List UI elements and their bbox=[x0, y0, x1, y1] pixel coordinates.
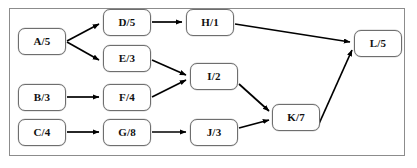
node-d[interactable]: D/5 bbox=[103, 9, 151, 36]
node-f[interactable]: F/4 bbox=[103, 84, 151, 111]
node-label: L/5 bbox=[370, 38, 387, 49]
node-label: E/3 bbox=[119, 53, 136, 64]
node-c[interactable]: C/4 bbox=[18, 119, 66, 146]
node-b[interactable]: B/3 bbox=[18, 84, 66, 111]
node-j[interactable]: J/3 bbox=[190, 119, 238, 146]
node-i[interactable]: I/2 bbox=[190, 63, 238, 90]
node-h[interactable]: H/1 bbox=[186, 9, 234, 36]
node-l[interactable]: L/5 bbox=[354, 30, 402, 57]
node-g[interactable]: G/8 bbox=[103, 119, 151, 146]
node-label: I/2 bbox=[207, 71, 220, 82]
node-a[interactable]: A/5 bbox=[18, 28, 66, 55]
node-label: G/8 bbox=[118, 127, 136, 138]
node-label: B/3 bbox=[34, 92, 51, 103]
node-label: H/1 bbox=[201, 17, 219, 28]
node-label: A/5 bbox=[33, 36, 50, 47]
node-k[interactable]: K/7 bbox=[272, 104, 320, 131]
node-label: K/7 bbox=[287, 112, 305, 123]
node-label: J/3 bbox=[207, 127, 222, 138]
node-e[interactable]: E/3 bbox=[103, 45, 151, 72]
diagram-canvas: A/5B/3C/4D/5E/3F/4G/8H/1I/2J/3K/7L/5 bbox=[0, 0, 417, 168]
node-label: C/4 bbox=[33, 127, 50, 138]
node-label: F/4 bbox=[119, 92, 135, 103]
node-label: D/5 bbox=[118, 17, 135, 28]
